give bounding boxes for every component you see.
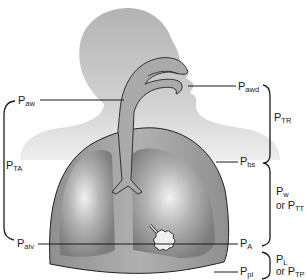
- label-main: P: [288, 265, 295, 277]
- label-subscript: TT: [295, 204, 304, 213]
- label-main: P: [288, 199, 295, 211]
- respiratory-pressure-diagram: [0, 0, 307, 280]
- label-p-alv: Palv: [17, 238, 34, 251]
- label-subscript: bs: [247, 160, 255, 169]
- label-subscript: aw: [25, 99, 35, 108]
- label-p-tp: or PTP: [276, 266, 305, 279]
- label-subscript: TR: [281, 116, 291, 125]
- label-subscript: pl: [247, 270, 253, 279]
- label-or: or: [276, 266, 288, 277]
- label-or: or: [276, 200, 288, 211]
- left-lung: [60, 150, 115, 257]
- label-p-tr: PTR: [274, 112, 291, 125]
- label-p-pl: Ppl: [240, 266, 253, 279]
- label-subscript: alv: [24, 242, 34, 251]
- label-p-w: Pw: [276, 186, 289, 199]
- label-subscript: awd: [245, 85, 259, 94]
- label-p-a: PA: [240, 238, 252, 251]
- label-subscript: A: [247, 242, 252, 251]
- label-p-tt: or PTT: [276, 200, 304, 213]
- label-p-aw: Paw: [18, 95, 35, 108]
- label-subscript: w: [283, 190, 288, 199]
- label-subscript: TA: [13, 164, 22, 173]
- label-p-bs: Pbs: [240, 156, 255, 169]
- label-p-l: PL: [276, 254, 288, 267]
- label-subscript: TP: [295, 270, 305, 279]
- label-p-awd: Pawd: [238, 81, 259, 94]
- label-p-ta: PTA: [6, 160, 22, 173]
